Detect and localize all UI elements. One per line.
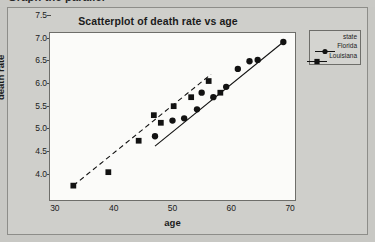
page-title: Scatterplot of death rate vs age xyxy=(8,15,308,27)
data-point xyxy=(217,90,223,96)
x-tick-label: 60 xyxy=(216,204,246,213)
y-tick-label: 7.0 xyxy=(21,34,47,43)
legend-item-florida: Florida xyxy=(313,41,357,51)
legend-label-florida: Florida xyxy=(337,43,357,50)
y-tick-mark xyxy=(47,15,51,16)
cut-off-heading: Graph the parallel xyxy=(8,0,105,3)
data-point xyxy=(210,94,216,100)
data-point xyxy=(152,133,158,139)
y-tick-label: 4.5 xyxy=(21,147,47,156)
data-point xyxy=(169,117,175,123)
y-tick-label: 7.5 xyxy=(21,11,47,20)
fit-line-louisiana xyxy=(73,74,211,185)
data-point xyxy=(70,183,76,189)
graph-panel: Scatterplot of death rate vs age death r… xyxy=(7,7,368,235)
data-point xyxy=(254,57,260,63)
x-tick-label: 50 xyxy=(158,204,188,213)
y-tick-label: 6.5 xyxy=(21,56,47,65)
document-text-strip: Graph the parallel xyxy=(0,0,375,7)
legend: state Florida Louisiana xyxy=(309,30,361,65)
data-point xyxy=(235,66,241,72)
y-axis-ticks: 4.04.55.05.56.06.57.07.5 xyxy=(16,8,47,177)
x-tick-label: 30 xyxy=(40,204,70,213)
legend-title: state xyxy=(313,33,357,40)
y-tick-label: 6.0 xyxy=(21,79,47,88)
y-tick-label: 5.5 xyxy=(21,102,47,111)
data-point xyxy=(136,138,142,144)
x-tick-label: 40 xyxy=(99,204,129,213)
x-tick-label: 70 xyxy=(275,204,305,213)
data-point xyxy=(158,120,164,126)
y-tick-label: 5.0 xyxy=(21,124,47,133)
data-point xyxy=(246,58,252,64)
plot-area xyxy=(49,32,296,201)
data-point xyxy=(151,112,157,118)
louisiana-marker-icon xyxy=(307,52,327,61)
data-point xyxy=(194,106,200,112)
data-point xyxy=(223,84,229,90)
data-point xyxy=(280,39,286,45)
data-point xyxy=(171,103,177,109)
data-point xyxy=(206,78,212,84)
x-axis-label: age xyxy=(49,217,296,228)
x-axis-ticks: 3040506070 xyxy=(49,201,296,215)
plot-svg xyxy=(50,33,295,200)
data-point xyxy=(198,90,204,96)
y-tick-label: 4.0 xyxy=(21,170,47,179)
florida-marker-icon xyxy=(315,42,335,51)
data-point xyxy=(105,169,111,175)
data-point xyxy=(181,115,187,121)
data-point xyxy=(188,94,194,100)
y-axis-label: death rate xyxy=(0,55,6,100)
